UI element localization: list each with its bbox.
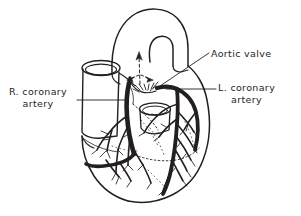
label-right-coronary-line-2: artery xyxy=(9,98,67,110)
label-right-coronary-artery: R. coronary artery xyxy=(9,86,67,109)
label-aortic-valve-line-1: Aortic valve xyxy=(211,48,271,60)
label-left-coronary-line-1: L. coronary xyxy=(218,82,275,94)
surface-stipple xyxy=(112,118,194,187)
aortic-valve xyxy=(131,82,158,93)
coronary-artery-diagram: Aortic valve L. coronary artery R. coron… xyxy=(0,0,301,216)
left-coronary-artery xyxy=(157,87,198,194)
aortic-arch xyxy=(112,9,188,84)
label-left-coronary-artery: L. coronary artery xyxy=(218,82,275,105)
label-aortic-valve: Aortic valve xyxy=(211,48,271,60)
label-right-coronary-line-1: R. coronary xyxy=(9,86,67,98)
heart-outline xyxy=(82,66,209,202)
label-left-coronary-line-2: artery xyxy=(218,94,275,106)
leader-line-aortic-valve xyxy=(160,53,209,86)
